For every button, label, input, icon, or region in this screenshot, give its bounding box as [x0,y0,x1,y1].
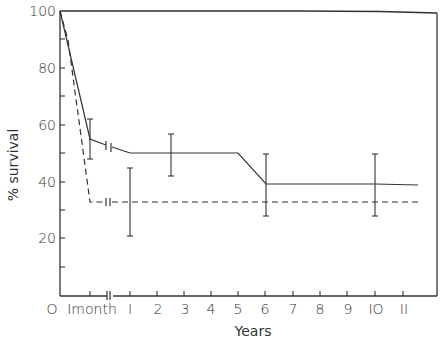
top-reference-line [60,11,437,13]
x-label-0: O [46,301,57,317]
x-label-5: 5 [234,301,243,317]
x-label-2: 2 [154,301,163,317]
y-label-20: 20 [38,230,56,246]
x-label-1month: Imonth [67,301,117,317]
x-ticks [90,291,403,296]
x-label-3: 3 [181,301,190,317]
survival-chart: 100 80 60 40 20 % survival O Imonth I 2 … [0,0,442,345]
y-ticks [60,39,65,267]
x-label-9: 9 [344,301,353,317]
y-axis-title: % survival [5,129,21,202]
x-label-11: II [400,301,408,317]
axis-break-icon [107,291,110,300]
y-label-40: 40 [38,174,56,190]
dashed-series [60,11,418,202]
x-label-6: 6 [261,301,270,317]
dashed-break-marks [106,198,110,206]
x-label-8: 8 [316,301,325,317]
x-label-10: IO [368,301,383,317]
x-label-1: I [128,301,132,317]
x-label-7: 7 [289,301,298,317]
y-label-80: 80 [38,60,56,76]
y-label-100: 100 [29,3,56,19]
x-axis-title: Years [234,323,272,339]
solid-series [60,11,418,185]
x-label-4: 4 [207,301,216,317]
error-bars [87,119,378,236]
y-label-60: 60 [38,117,56,133]
